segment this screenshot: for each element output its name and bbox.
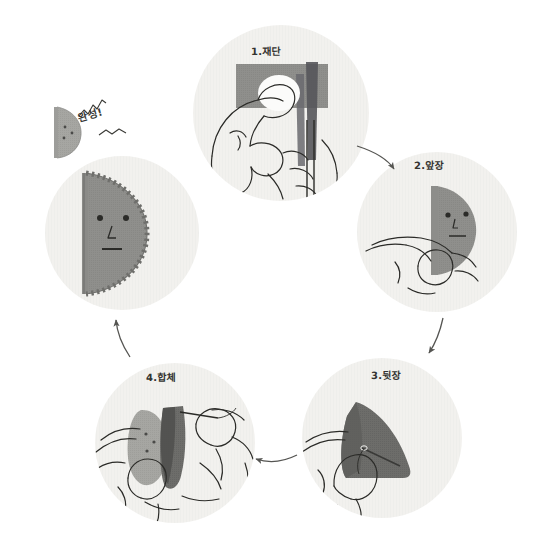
step-3-label: 3.뒷장 [371, 367, 401, 382]
felt-face-front-left [431, 186, 438, 275]
dot-3 [145, 449, 148, 452]
dot-1 [144, 432, 147, 435]
step-2-panel[interactable] [357, 152, 517, 312]
arrow-3-4 [256, 455, 297, 461]
step-3-panel[interactable] [302, 358, 462, 520]
step-1-circle [193, 25, 369, 201]
eye-right [463, 211, 468, 216]
arrow-4-done [116, 320, 130, 357]
step-4-label: 4.합체 [146, 369, 176, 384]
eye-left [97, 215, 103, 221]
step-4-panel[interactable] [95, 363, 255, 531]
eye-right [123, 215, 129, 221]
sparkle-bottom-icon [99, 129, 126, 135]
step-2-label: 2.앞장 [414, 157, 444, 172]
eye-left [445, 212, 450, 217]
scissor-blade-right [306, 62, 318, 160]
arrow-2-3 [429, 318, 443, 353]
step-done-panel[interactable] [45, 100, 199, 310]
dot-2 [152, 440, 155, 443]
tutorial-flowchart [0, 0, 540, 552]
step-1-panel[interactable] [193, 25, 369, 205]
step-1-label: 1.재단 [251, 43, 281, 58]
arrow-1-2 [357, 146, 394, 169]
finished-doll-spine [82, 173, 88, 294]
